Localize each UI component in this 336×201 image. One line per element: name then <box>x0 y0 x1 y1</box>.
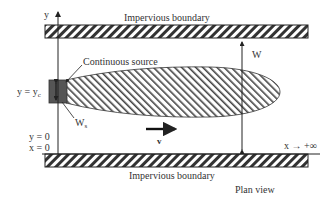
bottom-boundary-label: Impervious boundary <box>129 170 215 181</box>
top-impervious-boundary <box>45 25 308 38</box>
yc-label: y = yc <box>17 86 41 97</box>
ws-label: Ws <box>75 117 87 128</box>
width-label: W <box>252 49 261 60</box>
yc-label-sub: c <box>38 91 41 99</box>
x-zero-label: x = 0 <box>29 142 50 153</box>
yc-label-main: y = y <box>17 86 38 97</box>
bottom-impervious-boundary <box>45 154 308 167</box>
top-boundary-label: Impervious boundary <box>124 12 210 23</box>
velocity-label: v <box>157 136 162 147</box>
y-zero-label: y = 0 <box>29 131 50 142</box>
contaminant-plume <box>66 67 280 117</box>
continuous-source-label: Continuous source <box>83 56 158 67</box>
plan-view-label: Plan view <box>235 184 275 195</box>
x-axis-label: x → +∞ <box>284 140 317 151</box>
ws-label-sub: s <box>84 122 87 130</box>
y-axis-label: y <box>44 9 49 20</box>
